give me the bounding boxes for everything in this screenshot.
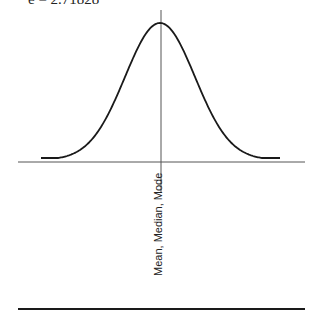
center-label: Mean, Median, Mode bbox=[152, 173, 164, 276]
